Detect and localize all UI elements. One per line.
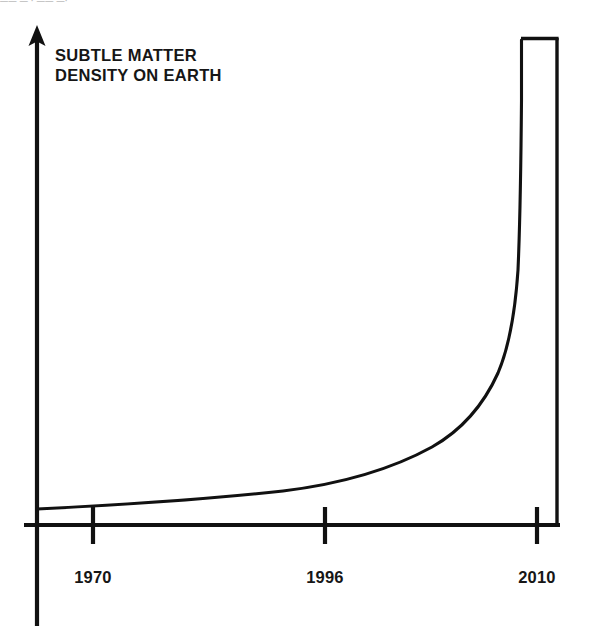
chart-title-line-1: SUBTLE MATTER — [55, 46, 197, 64]
x-tick-label-2010: 2010 — [518, 568, 556, 586]
subtle-matter-density-chart: 1970 1996 2010 SUBTLE MATTER DENSITY ON … — [0, 0, 595, 641]
x-tick-label-1996: 1996 — [306, 568, 344, 586]
exponential-curve — [37, 40, 522, 509]
chart-title-line-2: DENSITY ON EARTH — [55, 66, 222, 84]
chart-page: —— — · —— —· 1970 1996 2010 SUBTLE MATTE… — [0, 0, 595, 641]
x-tick-label-1970: 1970 — [74, 568, 112, 586]
